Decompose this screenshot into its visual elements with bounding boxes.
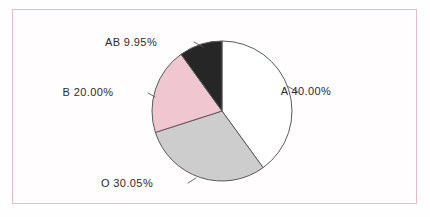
pie-label-b: B 20.00% <box>63 86 114 98</box>
pie-label-ab: AB 9.95% <box>105 36 157 48</box>
pie-label-o: O 30.05% <box>101 177 153 189</box>
chart-page: A 40.00%O 30.05%B 20.00%AB 9.95% <box>0 0 430 217</box>
pie-chart: A 40.00%O 30.05%B 20.00%AB 9.95% <box>0 0 430 217</box>
leader-line-o <box>188 178 196 183</box>
pie-label-a: A 40.00% <box>281 85 331 97</box>
pie-chart-svg: A 40.00%O 30.05%B 20.00%AB 9.95% <box>0 0 430 217</box>
pie-slice-group <box>152 41 292 181</box>
